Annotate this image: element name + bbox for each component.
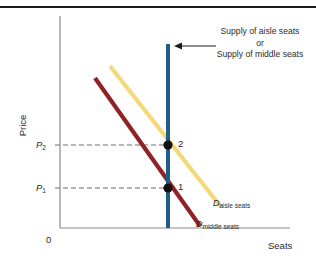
demand-label-aisle-seats: Daisle seats	[213, 198, 250, 211]
figure-canvas: Price Seats 0 P2 P1 2 1 Daisle seats Dmi…	[0, 0, 316, 263]
supply-annotation-line3: Supply of middle seats	[204, 49, 316, 61]
point-label-2: 2	[178, 138, 183, 149]
price-tick-p1-subscript: 1	[42, 187, 46, 194]
equilibrium-point-1	[163, 183, 172, 192]
demand-curve-middle-seats	[95, 78, 200, 226]
demand-label-middle-seats: Dmiddle seats	[196, 219, 239, 232]
price-tick-p1: P1	[36, 182, 46, 196]
point-label-1: 1	[178, 181, 183, 192]
demand-label-aisle-subscript: aisle seats	[220, 202, 251, 209]
price-tick-p2-subscript: 2	[42, 144, 46, 151]
x-axis-label: Seats	[268, 240, 292, 251]
price-tick-p2: P2	[36, 139, 46, 153]
supply-annotation-line2: or	[204, 38, 316, 50]
demand-label-middle-subscript: middle seats	[203, 223, 240, 230]
origin-label: 0	[46, 234, 51, 245]
y-axis-label: Price	[17, 99, 28, 153]
equilibrium-point-2	[163, 140, 172, 149]
supply-annotation-text: Supply of aisle seats or Supply of middl…	[204, 26, 316, 61]
supply-annotation-arrow-head	[174, 43, 182, 50]
supply-annotation-line1: Supply of aisle seats	[204, 26, 316, 38]
